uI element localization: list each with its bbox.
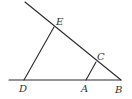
label-B: B bbox=[114, 84, 122, 95]
label-A: A bbox=[80, 83, 88, 94]
label-C: C bbox=[97, 51, 105, 62]
segment-AC bbox=[86, 62, 96, 80]
geometry-diagram: E C B A D bbox=[0, 0, 132, 99]
line-E-C-B bbox=[25, 2, 121, 80]
label-D: D bbox=[18, 83, 27, 94]
segment-DE bbox=[24, 27, 54, 80]
label-E: E bbox=[55, 16, 64, 27]
